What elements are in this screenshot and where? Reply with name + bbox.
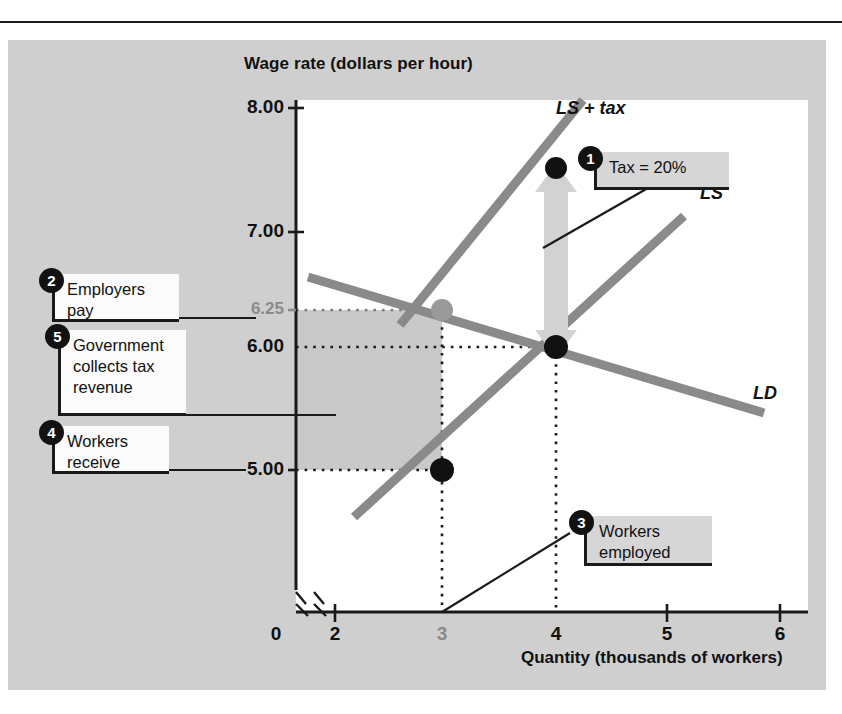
callout-employers-pay-line-2: pay bbox=[67, 300, 169, 321]
tax-wedge-arrow bbox=[535, 164, 577, 358]
callout-tax-revenue-line-3: revenue bbox=[73, 377, 176, 398]
y-tick-label-625: 6.25 bbox=[222, 299, 284, 319]
leader-workers-employed bbox=[442, 533, 570, 612]
callout-workers-receive-line-1: Workers bbox=[67, 431, 159, 452]
x-axis-title: Quantity (thousands of workers) bbox=[521, 648, 783, 668]
callout-badge-5: 5 bbox=[45, 324, 70, 349]
callout-employers-pay-line-1: Employers bbox=[67, 279, 169, 300]
callout-badge-3: 3 bbox=[569, 510, 594, 535]
callout-tax-rate-line-1: Tax = 20% bbox=[609, 157, 719, 178]
y-tick-label-500: 5.00 bbox=[222, 458, 284, 480]
callout-badge-4: 4 bbox=[39, 420, 64, 445]
callout-tax-revenue-line-2: collects tax bbox=[73, 356, 176, 377]
x-tick-label-2: 2 bbox=[315, 623, 355, 645]
callout-badge-2: 2 bbox=[39, 268, 64, 293]
curve-label-ld: LD bbox=[753, 383, 777, 404]
marker-supply-price-with-tax bbox=[545, 157, 567, 179]
callout-workers-employed: Workers employed bbox=[584, 516, 712, 566]
callout-employers-pay: Employers pay bbox=[52, 274, 179, 322]
callout-workers-receive: Workers receive bbox=[52, 426, 169, 474]
callout-workers-employed-line-2: employed bbox=[599, 542, 702, 563]
marker-workers-receive bbox=[430, 458, 454, 482]
x-tick-label-0: 0 bbox=[256, 623, 296, 645]
callout-tax-revenue: Government collects tax revenue bbox=[58, 330, 186, 416]
callout-workers-employed-line-1: Workers bbox=[599, 521, 702, 542]
x-tick-label-3: 3 bbox=[422, 623, 462, 645]
callout-workers-receive-line-2: receive bbox=[67, 452, 159, 473]
marker-no-tax-equilibrium bbox=[544, 335, 568, 359]
x-tick-label-6: 6 bbox=[760, 623, 800, 645]
callout-badge-1: 1 bbox=[578, 146, 603, 171]
y-tick-label-700: 7.00 bbox=[222, 220, 284, 242]
y-tick-label-800: 8.00 bbox=[222, 96, 284, 118]
callout-tax-revenue-line-1: Government bbox=[73, 335, 176, 356]
marker-employers-pay bbox=[431, 299, 453, 321]
x-tick-label-5: 5 bbox=[647, 623, 687, 645]
x-tick-label-4: 4 bbox=[536, 623, 576, 645]
tax-revenue-region bbox=[296, 310, 442, 470]
callout-tax-rate: Tax = 20% bbox=[594, 152, 729, 190]
y-tick-label-600: 6.00 bbox=[222, 335, 284, 357]
curve-label-ls-plus-tax: LS + tax bbox=[556, 98, 626, 119]
y-axis-title: Wage rate (dollars per hour) bbox=[244, 54, 473, 74]
